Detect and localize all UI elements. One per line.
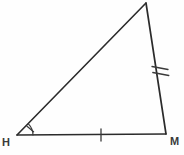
geometry-figure: H M [0,0,184,155]
triangle-diagram-svg [0,0,184,155]
vertex-label-m: M [170,136,179,147]
angle-arc-h [27,124,34,135]
triangle-outline [17,3,166,135]
vertex-label-h: H [2,137,10,148]
side-hm [17,134,166,135]
tick-mark-side-ma [152,67,169,76]
side-ah [17,3,146,135]
